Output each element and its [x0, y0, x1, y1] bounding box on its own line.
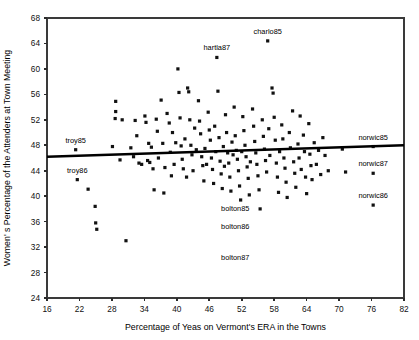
data-point — [297, 156, 300, 159]
data-point — [170, 174, 173, 177]
data-point — [281, 137, 284, 140]
data-point — [252, 125, 255, 128]
data-point — [244, 155, 247, 158]
data-point — [208, 128, 211, 131]
x-tick-label: 16 — [42, 304, 52, 314]
data-point — [157, 156, 160, 159]
data-point — [220, 172, 223, 175]
data-point — [156, 130, 159, 133]
data-point — [135, 134, 138, 137]
data-point — [181, 158, 184, 161]
x-tick-label: 34 — [140, 304, 150, 314]
data-point — [185, 175, 188, 178]
x-axis-title: Percentage of Yeas on Vermont's ERA in t… — [125, 322, 327, 332]
data-point — [255, 163, 258, 166]
y-tick-label: 48 — [31, 140, 41, 150]
data-point — [272, 91, 275, 94]
data-point — [111, 145, 114, 148]
data-point — [222, 145, 225, 148]
x-tick-label: 82 — [399, 304, 409, 314]
y-tick-label: 40 — [31, 191, 41, 201]
data-point — [114, 110, 117, 113]
x-tick-label: 46 — [205, 304, 215, 314]
regression-line — [47, 145, 404, 156]
data-point — [275, 161, 278, 164]
data-point — [305, 192, 308, 195]
data-point — [257, 188, 260, 191]
data-point — [282, 156, 285, 159]
data-point — [262, 135, 265, 138]
data-point — [189, 144, 192, 147]
data-point — [294, 186, 297, 189]
data-point — [307, 122, 310, 125]
data-point — [94, 205, 97, 208]
data-point — [256, 174, 259, 177]
data-point — [319, 173, 322, 176]
data-point — [87, 188, 90, 191]
data-point — [215, 56, 218, 59]
scatter-plot-figure: 162228344046525864707682 242832364044485… — [0, 0, 419, 340]
data-point — [114, 117, 117, 120]
data-point — [254, 151, 257, 154]
data-point — [76, 178, 79, 181]
data-point — [233, 105, 236, 108]
data-point — [148, 161, 151, 164]
data-point — [200, 155, 203, 158]
y-tick-label: 56 — [31, 89, 41, 99]
point-label: norwic87 — [358, 159, 388, 168]
data-point — [237, 169, 240, 172]
point-label: hartla87 — [203, 43, 230, 52]
data-point — [168, 121, 171, 124]
point-label: bolton87 — [221, 253, 249, 262]
data-point — [209, 139, 212, 142]
data-point — [140, 163, 143, 166]
data-point — [230, 140, 233, 143]
data-point — [211, 168, 214, 171]
data-point — [212, 182, 215, 185]
y-tick-label: 44 — [31, 166, 41, 176]
data-point — [231, 153, 234, 156]
x-tick-label: 52 — [237, 304, 247, 314]
data-point — [180, 144, 183, 147]
data-point — [265, 170, 268, 173]
x-tick-label: 64 — [302, 304, 312, 314]
y-tick-label: 28 — [31, 268, 41, 278]
data-point — [118, 158, 121, 161]
data-point — [249, 160, 252, 163]
data-point — [291, 109, 294, 112]
y-tick-label: 60 — [31, 64, 41, 74]
data-point — [372, 172, 375, 175]
data-point — [95, 228, 98, 231]
data-point — [313, 141, 316, 144]
data-point — [304, 175, 307, 178]
data-point — [207, 111, 210, 114]
data-point — [302, 133, 305, 136]
data-point — [236, 158, 239, 161]
data-point — [187, 90, 190, 93]
data-point — [132, 155, 135, 158]
data-point — [292, 160, 295, 163]
data-point — [201, 164, 204, 167]
data-point — [147, 142, 150, 145]
data-point — [183, 137, 186, 140]
y-tick-label: 24 — [31, 293, 41, 303]
data-point — [174, 141, 177, 144]
data-point — [270, 86, 273, 89]
data-point — [234, 134, 237, 137]
x-tick-label: 28 — [107, 304, 117, 314]
y-tick-label: 52 — [31, 115, 41, 125]
data-point — [259, 207, 262, 210]
data-point — [216, 90, 219, 93]
data-point — [186, 86, 189, 89]
x-tick-label: 22 — [75, 304, 85, 314]
x-axis-ticks: 162228344046525864707682 — [42, 298, 409, 314]
point-label: norwic85 — [358, 133, 388, 142]
data-point — [144, 121, 147, 124]
data-point — [155, 118, 158, 121]
data-point — [199, 132, 202, 135]
data-point — [134, 119, 137, 122]
data-point — [178, 116, 181, 119]
data-point — [277, 191, 280, 194]
data-point — [288, 131, 291, 134]
data-point — [150, 146, 153, 149]
